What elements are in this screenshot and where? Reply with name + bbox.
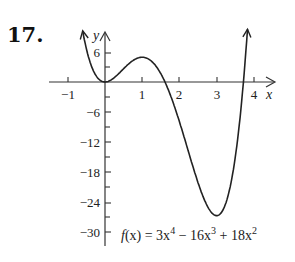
x-tick-label: 3: [214, 87, 221, 102]
x-tick-label: −1: [61, 87, 75, 102]
y-tick-label: −18: [80, 165, 100, 180]
x-tick-label: 2: [176, 87, 183, 102]
y-tick-label: −6: [86, 105, 100, 120]
y-tick-label: −30: [80, 225, 100, 240]
x-tick-label: 1: [139, 87, 146, 102]
y-axis-label: y: [91, 28, 100, 43]
formula-part: + 18x: [216, 228, 252, 243]
formula-exponent: 2: [252, 225, 257, 236]
x-axis-label: x: [265, 87, 273, 102]
y-tick-label: −12: [80, 135, 100, 150]
y-tick-label: −24: [80, 195, 101, 210]
formula-part: (x) = 3x: [125, 228, 170, 244]
formula-part: − 16x: [175, 228, 211, 243]
x-ticks: [68, 77, 254, 82]
x-tick-label: 4: [251, 87, 258, 102]
function-graph: −1 1 2 3 4 x 6 −6 −12 −18 −24 −30 y f(x)…: [0, 0, 295, 262]
y-tick-label: 6: [94, 45, 101, 60]
function-curve: [83, 29, 248, 215]
function-label: f(x) = 3x4 − 16x3 + 18x2: [121, 225, 257, 244]
